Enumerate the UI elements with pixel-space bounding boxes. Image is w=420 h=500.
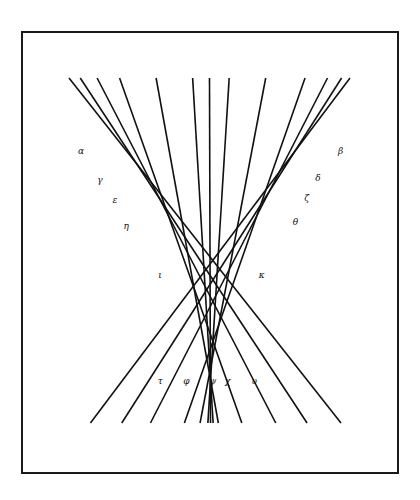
point-label: α bbox=[78, 146, 84, 156]
point-label: ι bbox=[158, 270, 162, 280]
ray-line-8 bbox=[208, 78, 229, 423]
point-label: κ bbox=[258, 270, 265, 280]
point-label: φ bbox=[183, 376, 190, 386]
point-label: γ bbox=[97, 175, 103, 185]
point-label: η bbox=[124, 221, 130, 231]
point-label: δ bbox=[315, 173, 320, 183]
ray-line-2 bbox=[80, 78, 307, 423]
point-label: ψ bbox=[209, 376, 217, 386]
ray-line-12 bbox=[122, 78, 342, 423]
ray-line-4 bbox=[120, 78, 242, 423]
point-label: ε bbox=[113, 195, 118, 205]
point-label: τ bbox=[158, 376, 164, 386]
point-label: ζ bbox=[304, 193, 310, 203]
ray-line-13 bbox=[90, 78, 350, 423]
point-label: χ bbox=[224, 376, 231, 386]
line-diagram: αγεηιβδζθκτφψχυ bbox=[0, 0, 420, 500]
point-label: θ bbox=[293, 217, 299, 227]
line-group bbox=[69, 78, 350, 423]
point-label: υ bbox=[251, 376, 257, 386]
point-label: β bbox=[337, 146, 343, 156]
